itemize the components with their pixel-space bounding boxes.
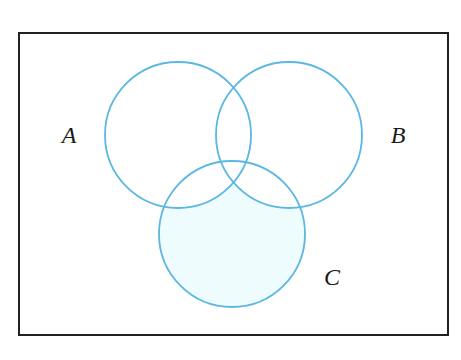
set-a-label: A (60, 122, 77, 148)
venn-diagram: A B C (0, 0, 461, 360)
set-c-label: C (324, 264, 341, 290)
set-b-label: B (391, 122, 406, 148)
